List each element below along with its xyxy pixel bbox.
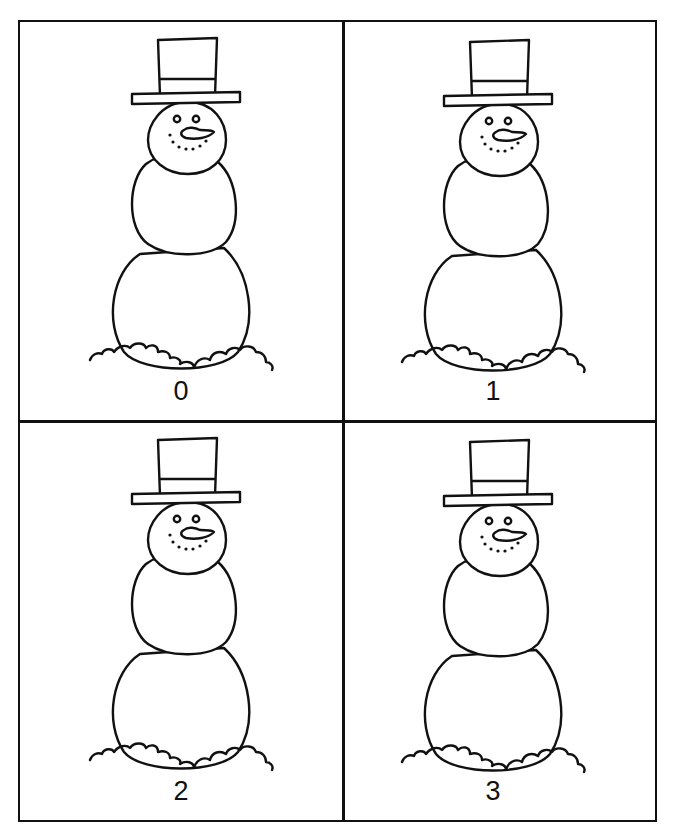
hat-crown bbox=[158, 438, 217, 496]
right-eye bbox=[193, 516, 199, 522]
left-eye bbox=[486, 518, 492, 524]
card-3: 3 bbox=[344, 422, 666, 820]
hat-crown bbox=[470, 40, 529, 98]
worksheet-grid: 0 1 2 3 bbox=[18, 20, 657, 822]
right-eye bbox=[505, 118, 511, 124]
hat-brim bbox=[132, 492, 240, 504]
left-eye bbox=[486, 118, 492, 124]
snowman-illustration bbox=[344, 22, 666, 420]
card-2: 2 bbox=[20, 422, 342, 820]
card-number: 3 bbox=[332, 778, 654, 805]
card-number: 1 bbox=[332, 378, 654, 405]
hat-brim bbox=[132, 92, 240, 104]
left-eye bbox=[174, 516, 180, 522]
hat-brim bbox=[444, 494, 552, 506]
hat-crown bbox=[470, 440, 529, 498]
card-number: 0 bbox=[20, 378, 342, 405]
left-eye bbox=[174, 116, 180, 122]
card-number: 2 bbox=[20, 778, 342, 805]
card-1: 1 bbox=[344, 22, 666, 420]
snowman-illustration bbox=[20, 22, 342, 420]
hat-brim bbox=[444, 94, 552, 106]
right-eye bbox=[505, 518, 511, 524]
hat-crown bbox=[158, 38, 217, 96]
snowman-illustration bbox=[344, 422, 666, 820]
snowman-illustration bbox=[20, 422, 342, 820]
right-eye bbox=[193, 116, 199, 122]
card-0: 0 bbox=[20, 22, 342, 420]
